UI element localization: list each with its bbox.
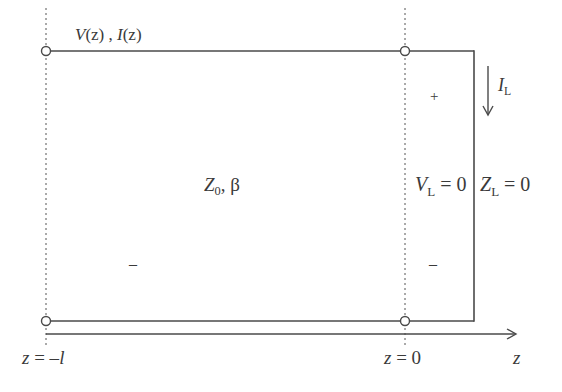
terminal-top-left <box>42 47 51 56</box>
characteristic-impedance-symbol: Z <box>204 174 215 195</box>
circuit-drawing <box>0 0 562 392</box>
left-position-label: z = –l <box>22 348 64 367</box>
plus-polarity-sign: + <box>430 89 438 104</box>
terminal-bottom-right <box>401 317 410 326</box>
load-voltage-label: VL = 0 <box>415 174 466 198</box>
right-position-equals: = 0 <box>391 347 421 368</box>
z-axis-label: z <box>513 348 520 367</box>
terminal-top-right <box>401 47 410 56</box>
load-voltage-value: = 0 <box>435 173 466 195</box>
terminal-bottom-left <box>42 317 51 326</box>
current-argument: (z) <box>123 25 142 44</box>
load-impedance-label: ZL = 0 <box>480 174 530 198</box>
load-voltage-symbol: V <box>415 173 427 195</box>
line-parameters-label: Z0, β <box>204 175 240 198</box>
right-position-label: z = 0 <box>384 348 421 367</box>
load-impedance-value: = 0 <box>499 173 530 195</box>
voltage-argument: (z) <box>85 25 104 44</box>
minus-polarity-sign-left: – <box>129 256 137 272</box>
separator: , <box>104 25 117 44</box>
load-impedance-subscript: L <box>491 184 499 199</box>
line-length-symbol: l <box>59 347 64 368</box>
minus-polarity-sign-right: – <box>429 256 437 272</box>
load-current-label: IL <box>498 76 511 98</box>
load-current-subscript: L <box>504 85 511 98</box>
left-position-equals: = – <box>29 347 59 368</box>
load-impedance-symbol: Z <box>480 173 491 195</box>
voltage-symbol: V <box>75 25 85 44</box>
propagation-constant: , β <box>221 174 240 195</box>
voltage-current-label: V(z) , I(z) <box>75 26 142 43</box>
load-voltage-subscript: L <box>427 184 435 199</box>
